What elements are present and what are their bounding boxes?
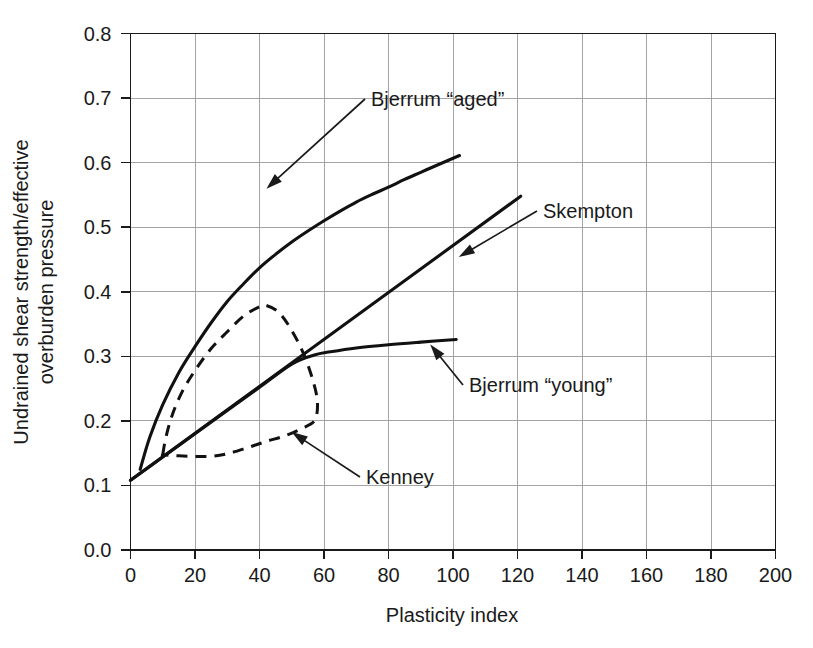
chart-canvas: 020406080100120140160180200 0.00.10.20.3… bbox=[0, 0, 813, 648]
x-tick-label: 0 bbox=[125, 564, 136, 586]
y-tick-label: 0.5 bbox=[84, 216, 112, 238]
y-tick-label: 0.6 bbox=[84, 152, 112, 174]
y-tick-label: 0.3 bbox=[84, 345, 112, 367]
annotation-label: Bjerrum “young” bbox=[469, 374, 612, 396]
annotation-leader bbox=[300, 438, 360, 477]
chart-figure: 020406080100120140160180200 0.00.10.20.3… bbox=[0, 0, 813, 648]
y-tick-label: 0.1 bbox=[84, 474, 112, 496]
annotation-1: Skempton bbox=[459, 200, 633, 257]
x-tick-label: 20 bbox=[184, 564, 206, 586]
y-tick-label: 0.4 bbox=[84, 281, 112, 303]
x-tick-label: 120 bbox=[501, 564, 534, 586]
annotation-leader bbox=[437, 352, 463, 385]
y-axis-ticks bbox=[121, 34, 131, 551]
x-axis-ticks bbox=[131, 550, 776, 559]
x-tick-label: 160 bbox=[630, 564, 663, 586]
x-tick-label: 200 bbox=[759, 564, 792, 586]
x-axis-title: Plasticity index bbox=[386, 604, 518, 626]
x-tick-label: 100 bbox=[436, 564, 469, 586]
x-tick-label: 80 bbox=[377, 564, 399, 586]
y-tick-label: 0.2 bbox=[84, 410, 112, 432]
y-axis-title-line1: Undrained shear strength/effective bbox=[10, 139, 32, 444]
annotation-leader bbox=[274, 99, 365, 182]
annotation-label: Bjerrum “aged” bbox=[371, 88, 504, 110]
y-tick-label: 0.8 bbox=[84, 23, 112, 45]
annotation-arrowhead bbox=[430, 345, 444, 361]
annotation-leader bbox=[467, 211, 537, 252]
series-line-0 bbox=[140, 156, 459, 470]
y-axis-tick-labels: 0.00.10.20.30.40.50.60.70.8 bbox=[84, 23, 112, 562]
data-series-group bbox=[131, 156, 521, 481]
annotations-group: Bjerrum “aged”SkemptonBjerrum “young”Ken… bbox=[266, 88, 633, 488]
annotation-arrowhead bbox=[459, 244, 475, 257]
x-tick-label: 140 bbox=[565, 564, 598, 586]
annotation-label: Skempton bbox=[543, 200, 633, 222]
y-tick-label: 0.0 bbox=[84, 539, 112, 561]
annotation-0: Bjerrum “aged” bbox=[266, 88, 504, 189]
x-tick-label: 180 bbox=[694, 564, 727, 586]
x-tick-label: 40 bbox=[248, 564, 270, 586]
y-axis-title: Undrained shear strength/effective overb… bbox=[10, 139, 57, 444]
annotation-2: Bjerrum “young” bbox=[430, 345, 612, 396]
x-tick-label: 60 bbox=[313, 564, 335, 586]
annotation-3: Kenney bbox=[292, 432, 434, 488]
x-axis-tick-labels: 020406080100120140160180200 bbox=[125, 564, 792, 586]
annotation-arrowhead bbox=[292, 432, 308, 445]
annotation-label: Kenney bbox=[366, 466, 434, 488]
y-axis-title-line2: overburden pressure bbox=[35, 200, 57, 385]
y-tick-label: 0.7 bbox=[84, 87, 112, 109]
